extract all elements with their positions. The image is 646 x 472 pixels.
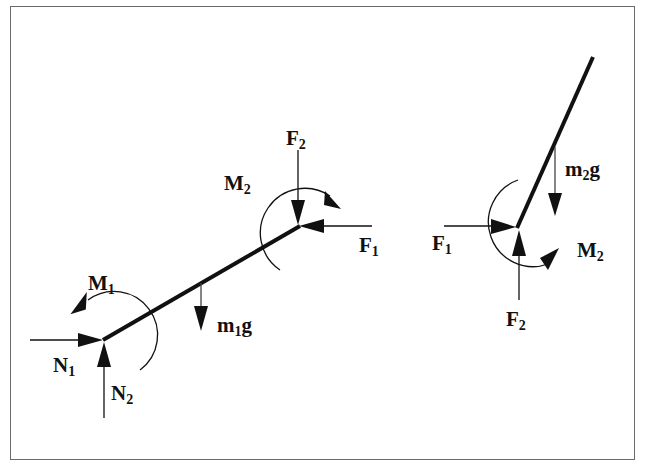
label-f2-left: F2 <box>286 126 306 152</box>
label-f2-right: F2 <box>506 307 526 333</box>
label-m1g: m1g <box>217 313 253 339</box>
f1-force-arrow-right <box>444 219 516 234</box>
f1-force-arrow-left <box>299 219 372 233</box>
m1g-gravity-arrow <box>194 283 208 331</box>
n2-force-arrow <box>97 342 111 418</box>
label-n1: N1 <box>53 353 75 379</box>
label-m2-left: M2 <box>224 171 251 197</box>
label-m2g: m2g <box>565 157 601 183</box>
m1-moment-arc <box>67 291 157 370</box>
label-m2-right: M2 <box>577 238 604 264</box>
label-f1-left: F1 <box>359 233 379 259</box>
n1-force-arrow <box>30 333 103 347</box>
free-body-diagram: M1 N1 N2 m1g F2 F1 M2 m2g F1 M2 F2 <box>0 0 646 472</box>
label-n2: N2 <box>111 381 133 407</box>
label-m1: M1 <box>88 271 115 297</box>
label-f1-right: F1 <box>432 231 452 257</box>
f2-force-arrow-left <box>291 150 305 225</box>
